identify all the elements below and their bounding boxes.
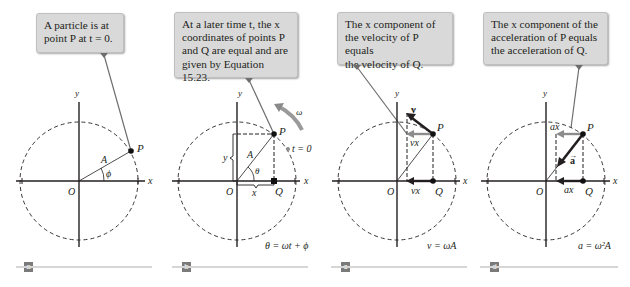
circle-diagram-d: y x O P Q a → ax ax a = ω²A — [470, 0, 630, 287]
y-axis-label: y — [237, 88, 242, 98]
y-component-label: y — [222, 152, 228, 163]
circle-diagram-b: ω y x O P Q A θ t = 0 x y θ = ωt + ϕ — [160, 0, 320, 287]
vx-top-label: vx — [410, 137, 419, 148]
point-q-label: Q — [435, 185, 443, 197]
x-axis-label: x — [147, 175, 153, 186]
amplitude-label: A — [100, 154, 108, 165]
panel-b: At a later time t, the x coordinates of … — [160, 0, 320, 287]
point-p-label: P — [136, 142, 144, 154]
omega-label: ω — [296, 107, 302, 117]
point-p-label: P — [278, 125, 286, 137]
theta-equation: θ = ωt + ϕ — [265, 240, 308, 251]
origin-label: O — [226, 186, 233, 197]
amplitude-label: A — [246, 149, 254, 160]
acceleration-equation: a = ω²A — [578, 240, 612, 251]
panel-rule — [172, 266, 308, 268]
t-zero-label: t = 0 — [292, 143, 312, 154]
vx-bottom-label: vx — [411, 185, 420, 196]
point-q-label: Q — [275, 185, 283, 197]
circle-diagram-c: y x O P Q v → vx vx v = ωA — [315, 0, 475, 287]
svg-text:→: → — [569, 151, 577, 160]
x-axis-label: x — [612, 175, 618, 186]
panel-rule — [16, 266, 152, 268]
ax-top-label: ax — [550, 121, 560, 132]
x-component-label: x — [251, 187, 257, 198]
panel-rule — [331, 266, 467, 268]
circle-diagram-a: y x O P A ϕ — [0, 0, 160, 287]
origin-label: O — [387, 186, 394, 197]
x-axis-label: x — [303, 175, 309, 186]
y-axis-label: y — [394, 88, 399, 98]
point-p-label: P — [586, 121, 594, 133]
y-axis-label: y — [74, 88, 79, 98]
svg-text:→: → — [409, 104, 417, 113]
ax-bottom-label: ax — [564, 184, 574, 195]
phi-label: ϕ — [106, 168, 111, 179]
theta-label: θ — [255, 166, 260, 176]
y-axis-label: y — [542, 88, 547, 98]
panel-rule — [480, 266, 618, 268]
panel-d: The x component of the acceleration of P… — [470, 0, 630, 287]
point-q-label: Q — [585, 185, 593, 197]
point-p-label: P — [436, 121, 444, 133]
panel-c: The x component of the velocity of P equ… — [315, 0, 475, 287]
x-axis-label: x — [462, 175, 468, 186]
origin-label: O — [68, 186, 75, 197]
panel-a: A particle is at point P at t = 0. y x O… — [0, 0, 160, 287]
origin-label: O — [536, 186, 543, 197]
velocity-equation: v = ωA — [427, 240, 457, 251]
